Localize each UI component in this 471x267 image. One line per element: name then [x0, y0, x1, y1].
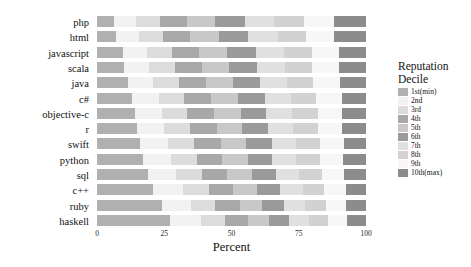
legend-items: 1st(min)2nd3rd4th5th6th7th8th9th10th(max…	[398, 87, 471, 177]
bar-segment-decile-8	[305, 200, 325, 211]
bar-segment-decile-6	[219, 31, 249, 42]
bar-segment-decile-4	[215, 200, 239, 211]
legend-label-decile-7: 7th	[411, 141, 421, 150]
bar-segment-decile-9	[326, 200, 346, 211]
bar-segment-decile-2	[128, 77, 154, 88]
bar-segment-decile-8	[299, 169, 322, 180]
legend-item-decile-9[interactable]: 9th	[398, 159, 471, 168]
bar-segment-decile-1	[97, 200, 162, 211]
x-axis-title: Percent	[97, 240, 366, 255]
y-axis-label-java: java	[72, 77, 90, 91]
y-axis-label-sql: sql	[77, 169, 89, 183]
legend-title-line-1: Reputation	[398, 60, 448, 72]
bar-segment-decile-3	[147, 47, 173, 58]
bar-segment-decile-4	[163, 31, 190, 42]
bar-row	[97, 108, 366, 119]
legend-swatch-icon-decile-8	[398, 151, 408, 159]
legend-swatch-icon-decile-2	[398, 97, 408, 105]
bar-segment-decile-5	[217, 123, 243, 134]
legend-swatch-icon-decile-6	[398, 133, 408, 141]
bar-segment-decile-5	[206, 77, 233, 88]
bar-segment-decile-2	[140, 138, 168, 149]
bar-segment-decile-9	[304, 16, 334, 27]
legend-item-decile-5[interactable]: 5th	[398, 123, 471, 132]
bar-segment-decile-8	[296, 138, 320, 149]
bar-segment-decile-2	[170, 215, 201, 226]
x-axis-tick-100: 100	[360, 229, 371, 239]
legend-item-decile-7[interactable]: 7th	[398, 141, 471, 150]
bar-segment-decile-1	[97, 215, 170, 226]
bar-segment-decile-9	[312, 62, 339, 73]
bar-segment-decile-3	[136, 16, 160, 27]
bar-segment-decile-6	[269, 215, 289, 226]
bar-segment-decile-8	[285, 62, 312, 73]
bar-segment-decile-7	[289, 215, 309, 226]
legend-swatch-icon-decile-3	[398, 106, 408, 114]
y-axis-label-swift: swift	[68, 138, 89, 152]
bar-segment-decile-5	[187, 16, 215, 27]
y-axis-label-ruby: ruby	[70, 200, 89, 214]
legend-item-decile-6[interactable]: 6th	[398, 132, 471, 141]
bar-segment-decile-7	[256, 47, 284, 58]
bar-row	[97, 77, 366, 88]
bar-segment-decile-5	[248, 215, 270, 226]
bar-segment-decile-6	[257, 184, 280, 195]
bar-segment-decile-6	[262, 200, 284, 211]
bar-segment-decile-8	[284, 47, 312, 58]
y-axis-label-php: php	[73, 16, 89, 30]
legend-label-decile-4: 4th	[411, 114, 421, 123]
bar-segment-decile-1	[97, 93, 132, 104]
bar-segment-decile-4	[172, 47, 199, 58]
bar-segment-decile-7	[284, 200, 306, 211]
legend-label-decile-9: 9th	[411, 159, 421, 168]
bar-segment-decile-5	[221, 138, 247, 149]
legend-item-decile-8[interactable]: 8th	[398, 150, 471, 159]
bar-segment-decile-9	[318, 123, 342, 134]
legend-label-decile-5: 5th	[411, 123, 421, 132]
bar-segment-decile-9	[320, 154, 343, 165]
bar-segment-decile-5	[227, 169, 251, 180]
bar-segment-decile-6	[227, 47, 255, 58]
legend-item-decile-10[interactable]: 10th(max)	[398, 168, 471, 177]
bar-segment-decile-9	[328, 215, 347, 226]
y-axis-category-labels: phphtmljavascriptscalajavac#objective-cr…	[0, 14, 93, 228]
bar-segment-decile-7	[260, 77, 287, 88]
bar-segment-decile-4	[160, 16, 187, 27]
y-axis-label-objective-c: objective-c	[42, 108, 89, 122]
bar-segment-decile-8	[293, 123, 317, 134]
bar-segment-decile-7	[245, 16, 275, 27]
plot-area	[97, 14, 366, 228]
bar-segment-decile-1	[97, 108, 135, 119]
bar-segment-decile-4	[175, 62, 202, 73]
bar-segment-decile-8	[296, 154, 320, 165]
legend-item-decile-4[interactable]: 4th	[398, 114, 471, 123]
bar-segment-decile-10	[346, 184, 366, 195]
y-axis-label-r: r	[86, 123, 90, 137]
legend-label-decile-1: 1st(min)	[411, 87, 436, 96]
legend-item-decile-3[interactable]: 3rd	[398, 105, 471, 114]
bar-segment-decile-9	[316, 93, 342, 104]
legend-item-decile-2[interactable]: 2nd	[398, 96, 471, 105]
bar-segment-decile-1	[97, 31, 116, 42]
bar-segment-decile-3	[201, 215, 225, 226]
legend-item-decile-1[interactable]: 1st(min)	[398, 87, 471, 96]
bar-segment-decile-1	[97, 47, 123, 58]
bar-segment-decile-8	[274, 16, 304, 27]
bar-row	[97, 169, 366, 180]
legend-swatch-icon-decile-4	[398, 115, 408, 123]
bar-segment-decile-9	[306, 31, 334, 42]
reputation-decile-stacked-bar-chart: phphtmljavascriptscalajavac#objective-cr…	[0, 0, 471, 267]
bar-segment-decile-2	[123, 47, 147, 58]
bar-segment-decile-3	[191, 200, 215, 211]
bar-segment-decile-8	[309, 215, 328, 226]
bar-row	[97, 184, 366, 195]
bar-segment-decile-10	[339, 47, 366, 58]
bar-segment-decile-4	[209, 184, 233, 195]
bar-segment-decile-3	[139, 31, 163, 42]
bar-segment-decile-1	[97, 123, 137, 134]
bar-segment-decile-6	[241, 108, 267, 119]
bar-segment-decile-6	[229, 62, 257, 73]
bar-segment-decile-2	[148, 169, 176, 180]
y-axis-label-c-: c++	[72, 184, 89, 198]
bar-segment-decile-4	[225, 215, 248, 226]
